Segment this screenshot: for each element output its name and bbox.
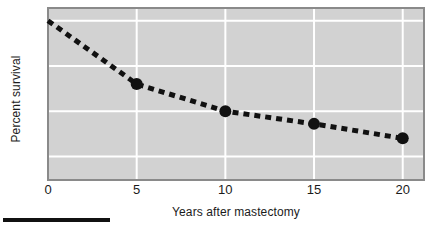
bottom-divider-rule bbox=[3, 218, 110, 222]
survival-chart-figure: 100 75 50 25 0 5 10 15 20 Percent surviv… bbox=[0, 0, 429, 228]
x-tick-label: 15 bbox=[294, 182, 334, 197]
x-tick-label: 20 bbox=[383, 182, 423, 197]
x-axis-title: Years after mastectomy bbox=[48, 205, 424, 219]
y-axis-title: Percent survival bbox=[9, 39, 23, 159]
x-tick-label: 5 bbox=[117, 182, 157, 197]
x-tick-label: 10 bbox=[205, 182, 245, 197]
x-tick-label: 0 bbox=[28, 182, 68, 197]
